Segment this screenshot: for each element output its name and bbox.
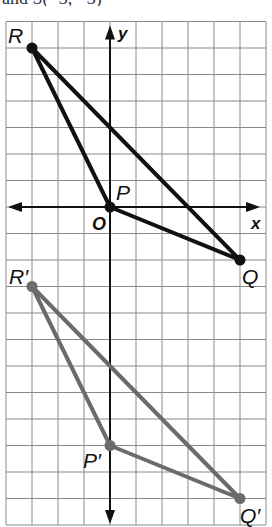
vertex-label-r-prime: R′	[9, 265, 29, 288]
vertex-point-r-prime	[27, 281, 38, 292]
vertex-point-q	[235, 255, 246, 266]
vertex-point-r	[27, 43, 38, 54]
y-axis-arrow-up-icon	[105, 26, 115, 40]
vertex-label-p-prime: P′	[83, 449, 102, 472]
coordinate-plane: x y O R P Q R′ P′ Q′	[0, 0, 272, 527]
x-axis-label: x	[250, 214, 262, 233]
y-axis-label: y	[117, 24, 129, 43]
vertex-point-p	[105, 202, 116, 213]
vertex-label-q-prime: Q′	[240, 504, 261, 527]
grid-lines	[6, 22, 266, 526]
vertex-label-r: R	[8, 24, 23, 47]
x-axis-arrow-left-icon	[8, 202, 22, 212]
vertex-point-q-prime	[235, 493, 246, 504]
x-axis-arrow-right-icon	[246, 202, 260, 212]
vertex-label-p: P	[116, 181, 130, 204]
vertex-point-p-prime	[105, 440, 116, 451]
y-axis-arrow-down-icon	[105, 510, 115, 524]
axes: x y O	[8, 24, 262, 525]
vertex-label-q: Q	[242, 265, 258, 288]
origin-label: O	[92, 214, 106, 234]
